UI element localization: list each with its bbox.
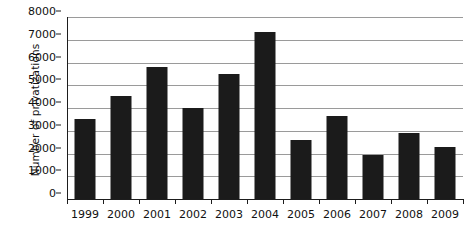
y-tick-mark [56, 33, 61, 34]
y-tick-mark [56, 11, 61, 12]
bar [291, 140, 312, 199]
bar-slot [355, 17, 391, 199]
y-tick-label: 6000 [28, 50, 56, 63]
bar-slot [427, 17, 463, 199]
bar [255, 32, 276, 199]
y-tick-label: 5000 [28, 73, 56, 86]
bar-slot [283, 17, 319, 199]
x-tick-mark [391, 200, 392, 204]
bar-chart: Number of privatizations 010002000300040… [0, 0, 472, 237]
x-tick-mark [463, 200, 464, 204]
x-tick-label: 2004 [251, 208, 279, 221]
y-tick-mark [56, 147, 61, 148]
x-tick-mark [355, 200, 356, 204]
x-tick-mark [211, 200, 212, 204]
x-axis-tick-group: 1999200020012002200320042005200620072008… [67, 200, 463, 234]
bar [111, 96, 132, 200]
x-tick-label: 2003 [215, 208, 243, 221]
bar [363, 155, 384, 199]
y-tick-label: 1000 [28, 164, 56, 177]
y-tick-mark [56, 79, 61, 80]
x-tick-mark [427, 200, 428, 204]
x-tick-label: 2002 [179, 208, 207, 221]
y-tick-mark [56, 193, 61, 194]
bar [75, 119, 96, 199]
bar-slot [67, 17, 103, 199]
bar-slot [211, 17, 247, 199]
y-tick-label: 4000 [28, 96, 56, 109]
bar-slot [103, 17, 139, 199]
y-tick-label: 2000 [28, 141, 56, 154]
y-tick-label: 8000 [28, 5, 56, 18]
y-tick-mark [56, 124, 61, 125]
y-axis-tick-group: 010002000300040005000600070008000 [14, 11, 62, 211]
bar [435, 147, 456, 199]
bar-slot [391, 17, 427, 199]
bar-slot [175, 17, 211, 199]
x-tick-mark [175, 200, 176, 204]
bar-slot [139, 17, 175, 199]
bar [399, 133, 420, 199]
x-tick-label: 2006 [323, 208, 351, 221]
y-tick-label: 3000 [28, 118, 56, 131]
y-tick-label: 0 [49, 187, 56, 200]
x-tick-label: 1999 [71, 208, 99, 221]
y-tick-label: 7000 [28, 27, 56, 40]
y-tick-mark [56, 102, 61, 103]
bar [183, 108, 204, 199]
x-tick-label: 2007 [359, 208, 387, 221]
bar-slot [247, 17, 283, 199]
x-tick-mark [319, 200, 320, 204]
y-tick-mark [56, 56, 61, 57]
bar [219, 74, 240, 199]
bar-slot [319, 17, 355, 199]
x-tick-mark [283, 200, 284, 204]
x-tick-label: 2000 [107, 208, 135, 221]
x-tick-mark [247, 200, 248, 204]
x-tick-mark [67, 200, 68, 204]
x-tick-label: 2008 [395, 208, 423, 221]
bar [327, 116, 348, 199]
x-tick-mark [139, 200, 140, 204]
x-tick-label: 2009 [431, 208, 459, 221]
x-tick-label: 2001 [143, 208, 171, 221]
bar [147, 67, 168, 199]
x-tick-mark [103, 200, 104, 204]
bar-series [67, 17, 463, 199]
y-tick-mark [56, 170, 61, 171]
x-tick-label: 2005 [287, 208, 315, 221]
